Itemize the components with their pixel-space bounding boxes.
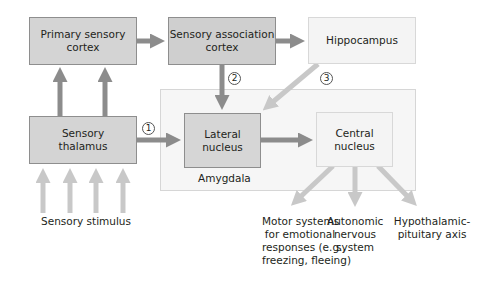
node-label: nucleus [334,140,375,153]
node-label: Hippocampus [326,34,398,47]
node-label: Central [335,127,373,140]
node-label: cortex [66,41,99,54]
node-label: Primary sensory [41,28,126,41]
pathway-badge-2: 2 [228,72,241,85]
node-sensory-thalamus: Sensory thalamus [29,116,137,164]
output-line: Autonomic [327,215,383,228]
node-label: thalamus [59,140,108,153]
sensory-stimulus-label: Sensory stimulus [41,215,131,228]
output-line: Hypothalamic- [392,215,472,228]
arrow-central-to-motor [296,166,333,201]
output-line: pituitary axis [392,228,472,241]
pathway-badge-3: 3 [320,72,333,85]
output-line: nervous [327,228,383,241]
node-sensory-association-cortex: Sensory association cortex [168,17,276,65]
output-line: system [327,241,383,254]
node-label: cortex [205,41,238,54]
node-central-nucleus: Central nucleus [316,112,393,167]
node-label: Sensory [62,127,104,140]
node-label: nucleus [202,141,243,154]
arrow-hippocampus-to-lateral [268,64,318,106]
amygdala-label: Amygdala [198,172,251,185]
output-line: freezing, fleeing) [262,254,338,267]
output-autonomic-nervous-system: Autonomic nervous system [327,215,383,254]
node-hippocampus: Hippocampus [308,17,416,64]
arrow-central-to-hpa [378,166,412,201]
node-label: Lateral [204,128,241,141]
node-primary-sensory-cortex: Primary sensory cortex [29,17,137,65]
node-lateral-nucleus: Lateral nucleus [184,113,261,168]
output-hypothalamic-pituitary-axis: Hypothalamic- pituitary axis [392,215,472,241]
pathway-badge-1: 1 [142,122,155,135]
node-label: Sensory association [170,28,275,41]
